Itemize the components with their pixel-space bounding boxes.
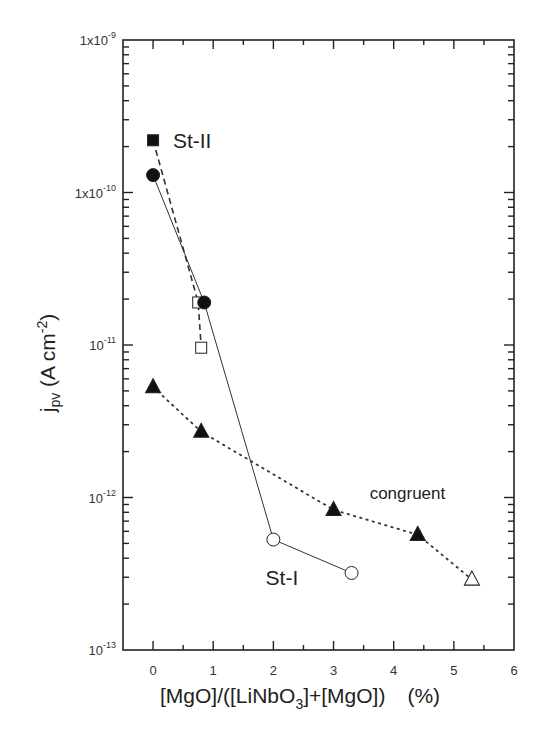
x-tick-labels: 0123456 [149,663,517,678]
y-tick-label-exponent: -13 [103,640,116,650]
x-axis-title-rest: ]+[MgO]) [303,684,385,707]
y-axis-title-unit: (A cm [36,333,59,393]
y-tick-label: 1x10-9 [80,30,116,48]
data-point-congruent [464,571,479,585]
annotations: St-IIcongruentSt-I [173,129,446,589]
x-tick-label: 0 [149,663,156,678]
y-axis-title-sub: pv [47,393,63,408]
data-point-st-i [267,533,280,546]
data-point-congruent [410,526,425,540]
series-line-st-ii [153,140,201,347]
data-point-st-i [147,169,160,182]
y-axis-title-close: ) [36,314,59,321]
y-tick-label-base: 10 [89,643,103,658]
x-tick-label: 5 [450,663,457,678]
y-tick-label-base: 1x10 [80,33,108,48]
x-tick-label: 4 [390,663,397,678]
x-tick-label: 3 [330,663,337,678]
x-axis-title-sub: 3 [295,696,303,712]
annotation-congruent: congruent [370,484,446,503]
y-tick-label-exponent: -10 [103,183,116,193]
y-tick-label-exponent: -12 [103,488,116,498]
x-tick-label: 6 [510,663,517,678]
data-point-congruent [146,379,161,393]
data-point-st-i [198,296,211,309]
annotation-st-i: St-I [266,566,299,589]
annotation-st-ii: St-II [173,129,212,152]
y-tick-label: 10-12 [89,488,116,506]
y-tick-label: 10-11 [89,335,116,353]
x-axis-title-unit: (%) [407,684,440,707]
x-axis-title: [MgO]/([LiNbO3]+[MgO])(%) [160,684,440,712]
data-point-st-ii [148,135,159,146]
chart: 0123456 1x10-91x10-1010-1110-1210-13 St-… [0,0,546,730]
y-tick-label: 1x10-10 [75,183,116,201]
y-axis-title: jpv (A cm-2) [34,314,63,413]
x-tick-label: 2 [270,663,277,678]
x-axis-title-main: [MgO]/([LiNbO [160,684,295,707]
data-point-st-ii [196,342,207,353]
data-point-congruent [326,501,341,515]
y-tick-label-exponent: -11 [104,335,116,345]
data-point-st-i [345,566,358,579]
y-tick-label-base: 1x10 [75,186,103,201]
series-markers [146,135,480,585]
y-tick-label-base: 10 [89,491,103,506]
series-line-st-i [153,175,352,573]
series-lines [153,140,472,579]
y-tick-label-exponent: -9 [108,30,116,40]
data-point-congruent [194,423,209,437]
y-tick-label: 10-13 [89,640,116,658]
y-tick-labels: 1x10-91x10-1010-1110-1210-13 [75,30,116,658]
y-axis-title-sup: -2 [34,321,50,334]
y-tick-label-base: 10 [89,338,103,353]
x-tick-label: 1 [210,663,217,678]
